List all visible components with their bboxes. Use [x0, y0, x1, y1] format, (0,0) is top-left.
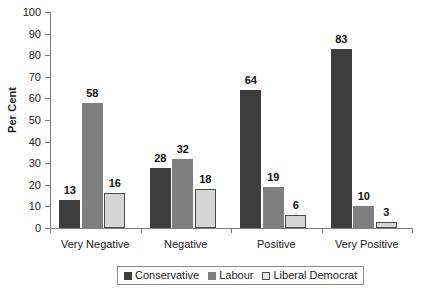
bar-value-label: 6	[279, 200, 312, 211]
legend-swatch-icon	[124, 272, 132, 280]
bar	[150, 168, 171, 228]
bar	[82, 103, 103, 228]
y-axis-tick-label: 100	[11, 7, 41, 18]
legend-item[interactable]: Liberal Democrat	[262, 270, 357, 281]
bar	[104, 193, 125, 228]
x-axis-tick	[231, 228, 232, 233]
legend-item-label: Liberal Democrat	[273, 270, 357, 281]
y-axis-tick-label: 0	[11, 223, 41, 234]
y-axis-tick-label: 10	[11, 201, 41, 212]
y-axis-tick-label: 40	[11, 137, 41, 148]
bar-value-label: 13	[53, 185, 86, 196]
bar	[376, 222, 397, 228]
x-axis-tick	[322, 228, 323, 233]
bar-chart: Per Cent 0102030405060708090100 13581628…	[0, 0, 425, 298]
legend-swatch-icon	[208, 272, 216, 280]
y-axis-tick-label: 80	[11, 50, 41, 61]
legend-swatch-icon	[262, 272, 270, 280]
bar-value-label: 18	[189, 174, 222, 185]
y-axis-tick-label: 30	[11, 158, 41, 169]
bar-value-label: 10	[347, 191, 380, 202]
x-axis-category-label: Very Positive	[322, 238, 413, 251]
bar	[285, 215, 306, 228]
legend: ConservativeLabourLiberal Democrat	[117, 266, 364, 285]
x-axis-category-label: Very Negative	[50, 238, 141, 251]
y-axis-tick-label: 70	[11, 72, 41, 83]
bar	[240, 90, 261, 228]
bar-value-label: 64	[234, 75, 267, 86]
x-axis-category-label: Positive	[231, 238, 322, 251]
bar-value-label: 16	[98, 178, 131, 189]
bar	[172, 159, 193, 228]
legend-item[interactable]: Labour	[208, 270, 253, 281]
bar-value-label: 32	[166, 144, 199, 155]
legend-item[interactable]: Conservative	[124, 270, 199, 281]
bar-value-label: 19	[257, 172, 290, 183]
y-axis-tick-label: 90	[11, 29, 41, 40]
y-axis-tick-label: 50	[11, 115, 41, 126]
x-axis-tick	[141, 228, 142, 233]
y-axis-tick-label: 60	[11, 93, 41, 104]
legend-item-label: Conservative	[135, 270, 199, 281]
x-axis-tick	[50, 228, 51, 233]
bar-value-label: 58	[76, 88, 109, 99]
x-axis-category-label: Negative	[141, 238, 232, 251]
bar	[59, 200, 80, 228]
y-axis-tick-label: 20	[11, 180, 41, 191]
bar	[195, 189, 216, 228]
legend-item-label: Labour	[219, 270, 253, 281]
x-axis-tick	[412, 228, 413, 233]
bar-value-label: 3	[370, 207, 403, 218]
bar-value-label: 83	[325, 34, 358, 45]
